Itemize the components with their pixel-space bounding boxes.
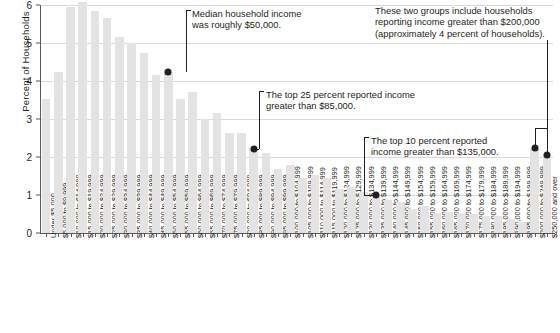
x-tick-mark xyxy=(83,234,84,237)
x-tick-mark xyxy=(229,234,230,237)
x-tick-mark xyxy=(449,234,450,237)
top25-leader-line xyxy=(259,91,260,149)
top-groups-annotation-text: These two groups include householdsrepor… xyxy=(375,5,545,39)
x-tick-mark xyxy=(486,234,487,237)
top10-annotation-text-line-1: The top 10 percent reported xyxy=(371,135,499,146)
x-tick-mark xyxy=(400,234,401,237)
x-tick-mark xyxy=(290,234,291,237)
top10-leader-line xyxy=(364,137,365,195)
x-tick-label: $250,000 and over xyxy=(550,176,559,238)
x-tick-mark xyxy=(498,234,499,237)
x-tick-mark xyxy=(46,234,47,237)
top25-annotation-text-line-1: The top 25 percent reported income xyxy=(266,89,415,100)
y-tick-label: 0 xyxy=(10,228,32,239)
top-groups-marker-dot-1 xyxy=(531,145,538,152)
x-tick-mark xyxy=(144,234,145,237)
x-tick-mark xyxy=(437,234,438,237)
x-tick-mark xyxy=(522,234,523,237)
x-tick-mark xyxy=(339,234,340,237)
x-tick-mark xyxy=(364,234,365,237)
median-leader-tick xyxy=(186,10,187,19)
median-annotation-text: Median household incomewas roughly $50,0… xyxy=(192,8,301,31)
x-tick-mark xyxy=(242,234,243,237)
x-tick-mark xyxy=(315,234,316,237)
top-groups-annotation-text-line-2: reporting income greater than $200,000 xyxy=(375,16,545,27)
x-tick-mark xyxy=(132,234,133,237)
y-tick-label: 4 xyxy=(10,76,32,87)
x-tick-mark xyxy=(474,234,475,237)
x-tick-mark xyxy=(119,234,120,237)
top-groups-bracket-top xyxy=(535,128,547,129)
top10-annotation-text: The top 10 percent reportedincome greate… xyxy=(371,135,499,158)
x-tick-mark xyxy=(388,234,389,237)
median-leader-line xyxy=(186,19,187,72)
x-tick-mark xyxy=(58,234,59,237)
x-tick-mark xyxy=(266,234,267,237)
x-tick-mark xyxy=(413,234,414,237)
income-distribution-chart: Percent of Households 0123456Under $5,00… xyxy=(0,0,560,333)
x-tick-mark xyxy=(461,234,462,237)
x-tick-mark xyxy=(193,234,194,237)
y-tick-label: 3 xyxy=(10,114,32,125)
x-tick-mark xyxy=(180,234,181,237)
x-tick-mark xyxy=(168,234,169,237)
x-tick-mark xyxy=(107,234,108,237)
y-tick-label: 1 xyxy=(10,190,32,201)
x-tick-mark xyxy=(254,234,255,237)
x-tick-mark xyxy=(535,234,536,237)
y-tick-label: 6 xyxy=(10,0,32,11)
x-tick-mark xyxy=(156,234,157,237)
x-tick-mark xyxy=(95,234,96,237)
top25-annotation-text-line-2: greater than $85,000. xyxy=(266,100,415,111)
x-tick-mark xyxy=(217,234,218,237)
median-annotation-text-line-1: Median household income xyxy=(192,8,301,19)
x-tick-mark xyxy=(547,234,548,237)
top-groups-leader-line xyxy=(547,40,548,128)
y-tick-label: 5 xyxy=(10,38,32,49)
top25-marker-dot xyxy=(250,146,257,153)
x-tick-mark xyxy=(351,234,352,237)
median-annotation-text-line-2: was roughly $50,000. xyxy=(192,19,301,30)
top10-annotation-text-line-2: income greater than $135,000. xyxy=(371,146,499,157)
y-tick-label: 2 xyxy=(10,152,32,163)
top-groups-annotation-text-line-3: (approximately 4 percent of households). xyxy=(375,28,545,39)
top-groups-annotation-text-line-1: These two groups include households xyxy=(375,5,545,16)
x-tick-mark xyxy=(303,234,304,237)
x-tick-mark xyxy=(71,234,72,237)
median-marker-dot xyxy=(165,68,172,75)
x-tick-mark xyxy=(376,234,377,237)
top-groups-marker-dot-2 xyxy=(543,152,550,159)
x-tick-mark xyxy=(425,234,426,237)
top25-annotation-text: The top 25 percent reported incomegreate… xyxy=(266,89,415,112)
x-tick-mark xyxy=(510,234,511,237)
x-tick-mark xyxy=(327,234,328,237)
median-leader-top xyxy=(186,10,191,11)
x-tick-mark xyxy=(205,234,206,237)
x-tick-mark xyxy=(278,234,279,237)
top10-marker-dot xyxy=(372,192,379,199)
